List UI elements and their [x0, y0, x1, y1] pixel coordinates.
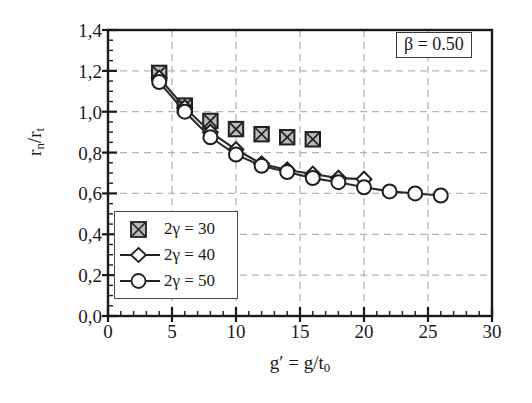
x-tick-label: 25 [419, 322, 438, 341]
legend-item-0: 2γ = 30 [115, 216, 237, 242]
legend-item-label-1: 2γ = 40 [161, 245, 215, 265]
beta-annotation-box: β = 0.50 [396, 32, 472, 58]
x-tick-label: 15 [291, 322, 310, 341]
x-tick-label: 0 [103, 322, 113, 341]
legend: 2γ = 30 2γ = 40 2γ = 50 [114, 211, 238, 299]
circle-marker-icon [119, 270, 161, 292]
x-tick-label: 5 [167, 322, 177, 341]
legend-item-label-2: 2γ = 50 [161, 271, 215, 291]
x-tick-label: 30 [483, 322, 502, 341]
beta-annotation-text: β = 0.50 [404, 34, 464, 54]
x-tick-label: 10 [227, 322, 246, 341]
crossed-square-marker-icon [119, 218, 161, 240]
x-tick-label: 20 [355, 322, 374, 341]
chart-figure: rn/rt g′ = g/t0 0,00,20,40,60,81,01,21,4… [0, 0, 532, 403]
x-axis-tick-labels: 051015202530 [0, 0, 532, 403]
legend-item-1: 2γ = 40 [115, 242, 237, 268]
diamond-marker-icon [119, 244, 161, 266]
legend-item-2: 2γ = 50 [115, 268, 237, 294]
legend-item-label-0: 2γ = 30 [161, 219, 215, 239]
